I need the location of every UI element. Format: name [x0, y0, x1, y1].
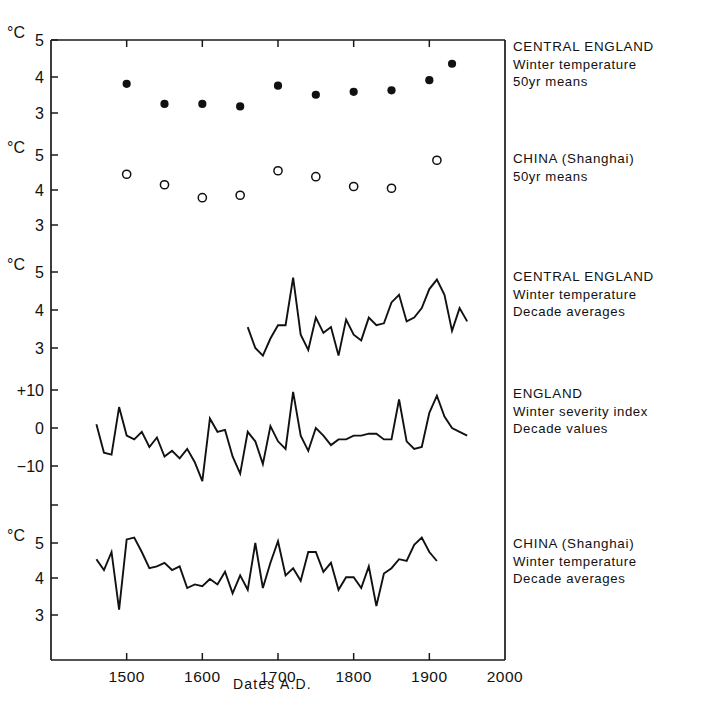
data-point-filled: [312, 91, 320, 99]
y-tick-label: 5: [35, 264, 44, 281]
figure-container: 150016001700180019002000543°C543°C543°C+…: [0, 0, 703, 720]
x-tick-label: 1800: [335, 668, 371, 685]
y-tick-label: 5: [35, 32, 44, 49]
legend-england-severity: ENGLAND Winter severity index Decade val…: [513, 385, 648, 438]
series-line: [96, 392, 467, 481]
y-tick-label: 3: [35, 340, 44, 357]
data-series: [96, 60, 467, 610]
axis-ticks: [51, 40, 429, 660]
data-point-open: [160, 181, 168, 189]
data-point-open: [433, 156, 441, 164]
y-tick-label: 0: [35, 420, 44, 437]
legend-china-decade: CHINA (Shanghai) Winter temperature Deca…: [513, 535, 637, 588]
y-tick-label: 4: [35, 69, 44, 86]
legend-title: ENGLAND: [513, 385, 648, 403]
legend-line-2: Winter temperature: [513, 553, 637, 571]
legend-line-3: Decade values: [513, 420, 648, 438]
y-tick-label: 4: [35, 302, 44, 319]
x-axis-label: Dates A.D.: [233, 676, 312, 692]
y-axis-unit-label: °C: [7, 24, 25, 41]
plot-frame: [51, 40, 505, 660]
y-axis-unit-label: °C: [7, 256, 25, 273]
series-line: [96, 538, 437, 610]
y-tick-label: 3: [35, 607, 44, 624]
data-point-filled: [198, 100, 206, 108]
legend-line-3: Decade averages: [513, 303, 654, 321]
legend-china-50yr: CHINA (Shanghai) 50yr means: [513, 150, 634, 185]
x-tick-label: 1500: [108, 668, 144, 685]
y-tick-label: 3: [35, 105, 44, 122]
y-tick-label: −10: [17, 458, 44, 475]
y-tick-label: +10: [17, 382, 44, 399]
y-tick-label: 3: [35, 217, 44, 234]
data-point-filled: [274, 82, 282, 90]
data-point-filled: [350, 88, 358, 96]
data-point-open: [350, 182, 358, 190]
axis-tick-labels: 150016001700180019002000543°C543°C543°C+…: [7, 24, 523, 685]
data-point-open: [274, 167, 282, 175]
legend-title: CENTRAL ENGLAND: [513, 268, 654, 286]
legend-line-2: 50yr means: [513, 168, 634, 186]
x-tick-label: 2000: [487, 668, 523, 685]
data-point-filled: [387, 86, 395, 94]
data-point-open: [387, 184, 395, 192]
data-point-open: [123, 170, 131, 178]
legend-title: CHINA (Shanghai): [513, 535, 637, 553]
data-point-filled: [425, 76, 433, 84]
data-point-open: [236, 191, 244, 199]
legend-line-2: Winter temperature: [513, 56, 654, 74]
legend-central-england-decade: CENTRAL ENGLAND Winter temperature Decad…: [513, 268, 654, 321]
data-point-filled: [123, 80, 131, 88]
y-axis-unit-label: °C: [7, 527, 25, 544]
legend-line-3: Decade averages: [513, 570, 637, 588]
y-axis-unit-label: °C: [7, 139, 25, 156]
y-tick-label: 5: [35, 147, 44, 164]
y-tick-label: 4: [35, 570, 44, 587]
series-line: [248, 278, 467, 356]
data-point-open: [198, 194, 206, 202]
legend-title: CENTRAL ENGLAND: [513, 38, 654, 56]
legend-line-2: Winter temperature: [513, 286, 654, 304]
data-point-filled: [236, 102, 244, 110]
legend-line-3: 50yr means: [513, 73, 654, 91]
chart-svg: 150016001700180019002000543°C543°C543°C+…: [0, 0, 703, 720]
data-point-open: [312, 173, 320, 181]
legend-title: CHINA (Shanghai): [513, 150, 634, 168]
x-tick-label: 1600: [184, 668, 220, 685]
y-tick-label: 4: [35, 182, 44, 199]
legend-central-england-50yr: CENTRAL ENGLAND Winter temperature 50yr …: [513, 38, 654, 91]
legend-line-2: Winter severity index: [513, 403, 648, 421]
data-point-filled: [160, 100, 168, 108]
y-tick-label: 5: [35, 535, 44, 552]
data-point-filled: [448, 60, 456, 68]
x-tick-label: 1900: [411, 668, 447, 685]
